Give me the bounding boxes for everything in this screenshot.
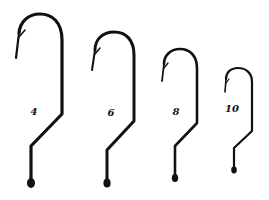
hook-6-eye	[103, 179, 110, 188]
hook-6-barb	[92, 50, 95, 70]
hook-4-eye	[27, 178, 35, 188]
hook-10-shank	[226, 68, 252, 168]
hook-size-4	[16, 14, 62, 188]
hook-size-label-4: 4	[31, 106, 38, 117]
hooks-diagram	[0, 0, 269, 200]
hook-size-label-6: 6	[108, 107, 115, 118]
hook-8-eye	[172, 174, 178, 182]
hook-4-shank	[19, 14, 62, 182]
hook-size-label-8: 8	[173, 106, 180, 117]
hook-8-shank	[164, 49, 197, 177]
hook-10-eye	[231, 167, 237, 174]
hook-8-barb	[162, 64, 164, 81]
hook-size-label-10: 10	[225, 103, 239, 114]
hook-10-barb	[225, 79, 226, 92]
hook-size-10	[225, 68, 252, 173]
